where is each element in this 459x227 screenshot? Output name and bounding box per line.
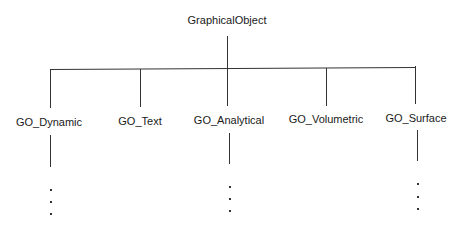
connector-go-surface <box>415 66 416 104</box>
subconnector-go-analytical <box>229 133 230 164</box>
node-go-surface: GO_Surface <box>385 112 446 124</box>
connector-go-volumetric <box>326 68 327 106</box>
node-go-volumetric: GO_Volumetric <box>289 113 364 125</box>
ellipsis-dot <box>417 196 419 198</box>
ellipsis-dot <box>50 213 52 215</box>
ellipsis-dot <box>50 201 52 203</box>
connector-go-dynamic <box>50 69 51 108</box>
ellipsis-dot <box>50 189 52 191</box>
ellipsis-dot <box>229 198 231 200</box>
connector-go-analytical <box>227 68 228 106</box>
subconnector-go-surface <box>417 130 418 161</box>
connector-go-text <box>140 69 141 107</box>
root-node-graphicalobject: GraphicalObject <box>188 14 267 26</box>
node-go-dynamic: GO_Dynamic <box>16 116 82 128</box>
ellipsis-dot <box>229 186 231 188</box>
ellipsis-dot <box>417 183 419 185</box>
node-go-text: GO_Text <box>118 115 161 127</box>
subconnector-go-dynamic <box>50 135 51 167</box>
ellipsis-dot <box>417 208 419 210</box>
node-go-analytical: GO_Analytical <box>194 114 264 126</box>
sibling-bus-line <box>50 67 416 70</box>
ellipsis-dot <box>229 210 231 212</box>
